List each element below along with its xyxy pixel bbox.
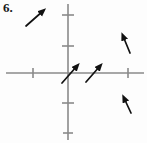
- vector-field-canvas: [0, 0, 147, 143]
- vector-field-figure: 6.: [0, 0, 147, 143]
- arrow-upper-right: [123, 36, 130, 53]
- arrow-origin: [62, 66, 77, 83]
- arrow-right-of-origin: [86, 66, 100, 82]
- arrow-upper-left: [26, 11, 43, 26]
- direction-field-arrows: [26, 11, 131, 113]
- arrow-lower-right: [124, 98, 131, 113]
